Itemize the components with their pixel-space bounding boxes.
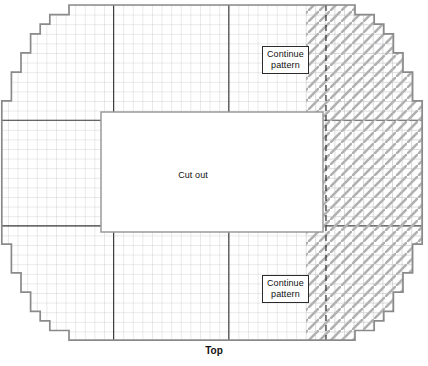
cutout-region [101, 112, 323, 232]
pattern-schematic-svg [0, 0, 428, 366]
continue-pattern-label-top: Continue pattern [262, 46, 309, 74]
continue-pattern-label-bottom: Continue pattern [262, 275, 309, 303]
figure-canvas: Continue pattern Continue pattern Cut ou… [0, 0, 428, 366]
figure-caption: Top [205, 345, 223, 356]
cut-out-label: Cut out [178, 170, 208, 180]
